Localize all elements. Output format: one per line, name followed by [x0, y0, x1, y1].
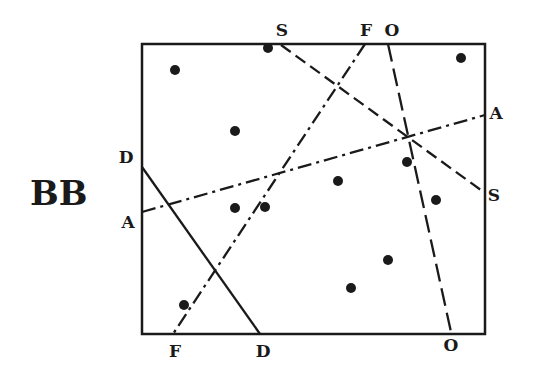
- diagram-canvas: BB SSFFOOAADD: [0, 0, 534, 381]
- data-point: [333, 176, 343, 186]
- line-f: [173, 44, 365, 334]
- data-point: [170, 65, 180, 75]
- line-d: [142, 167, 260, 334]
- line-s: [281, 45, 485, 193]
- data-point: [230, 203, 240, 213]
- diagram-title: BB: [30, 173, 87, 213]
- data-point: [431, 195, 441, 205]
- label-d-1: D: [119, 147, 134, 167]
- line-o: [388, 44, 451, 332]
- label-a-2: A: [488, 103, 503, 123]
- data-point: [456, 53, 466, 63]
- label-d-2: D: [256, 341, 271, 361]
- label-f-2: F: [169, 341, 181, 361]
- label-f-1: F: [360, 20, 372, 40]
- label-o-1: O: [385, 20, 400, 40]
- data-point: [402, 157, 412, 167]
- data-point: [263, 43, 273, 53]
- data-point: [260, 202, 270, 212]
- data-point: [179, 300, 189, 310]
- data-point: [346, 283, 356, 293]
- label-s-2: S: [488, 185, 500, 205]
- label-o-2: O: [444, 335, 459, 355]
- frame-rectangle: [142, 44, 485, 334]
- data-point: [230, 126, 240, 136]
- data-point: [383, 255, 393, 265]
- lines-layer: [142, 44, 485, 334]
- label-a-1: A: [120, 212, 135, 232]
- label-s-1: S: [276, 20, 288, 40]
